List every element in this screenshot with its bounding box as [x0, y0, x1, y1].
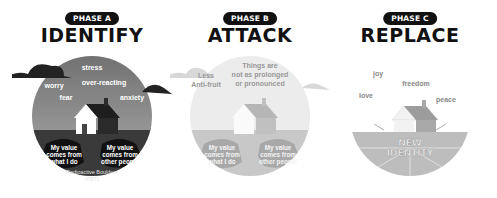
phase-b-title: ATTACK [170, 24, 330, 46]
new-identity-line2: IDENTITY [387, 148, 434, 158]
phase-a-title: IDENTIFY [12, 24, 172, 46]
word-fear: fear [60, 94, 73, 101]
word-anxiety: anxiety [120, 94, 144, 102]
phase-b-panel: PHASE B ATTACK Less Anti-fruit Things ar… [170, 0, 330, 198]
phase-a-panel: PHASE A IDENTIFY stress worry [12, 0, 172, 198]
phase-c-title: REPLACE [330, 24, 490, 46]
word-less: Less [198, 72, 214, 79]
boulder-left-text: comes from [204, 151, 240, 158]
word-anti-fruit: Anti-fruit [191, 81, 221, 88]
phase-a-illustration: stress worry over-reacting fear anxiety … [12, 48, 172, 198]
word-joy: joy [372, 70, 383, 78]
cloud-icon [302, 83, 330, 90]
word-not-as-prolonged: not as prolonged [232, 71, 289, 79]
word-stress: stress [82, 64, 103, 71]
word-love: love [359, 92, 373, 99]
word-over-reacting: over-reacting [82, 79, 126, 87]
word-things-are: Things are [242, 62, 278, 70]
boulder-right-text: comes from [102, 151, 138, 158]
boulder-left-text: comes from [46, 151, 82, 158]
boulder-right-text: other people [259, 158, 297, 166]
boulder-right-text: other people [101, 158, 139, 166]
boulder-right-text: comes from [260, 151, 296, 158]
word-or-pronounced: or pronounced [235, 80, 284, 88]
word-worry: worry [43, 82, 63, 90]
caption-pbt: (PBT) [85, 176, 100, 182]
phase-b-illustration: Less Anti-fruit Things are not as prolon… [170, 48, 330, 198]
new-identity-line1: NEW [398, 138, 422, 148]
boulder-left-text: what I do [207, 158, 235, 165]
boulder-left-text: what I do [49, 158, 77, 165]
trees-icon [468, 118, 483, 132]
word-freedom: freedom [402, 80, 430, 87]
caption-radioactive-boulders: Radioactive Boulders [66, 169, 118, 175]
word-peace: peace [436, 96, 456, 104]
phase-c-illustration: joy freedom love peace NEW IDENTITY [330, 48, 490, 198]
trees-icon [150, 118, 165, 130]
trees-icon [308, 118, 323, 130]
phase-c-panel: PHASE C REPLACE joy f [330, 0, 490, 198]
